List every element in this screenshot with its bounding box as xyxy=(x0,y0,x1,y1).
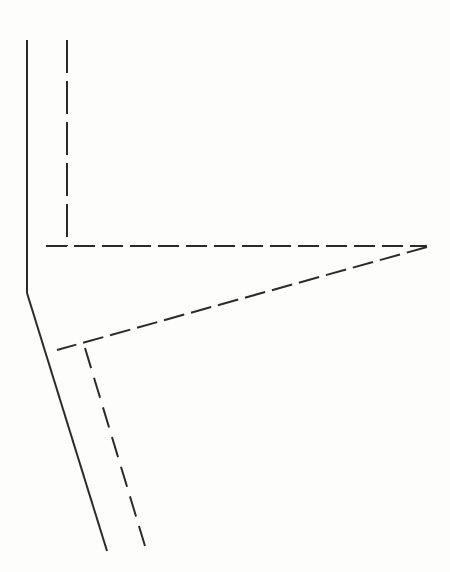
line-diagram xyxy=(0,0,450,572)
figure-canvas xyxy=(0,0,450,572)
